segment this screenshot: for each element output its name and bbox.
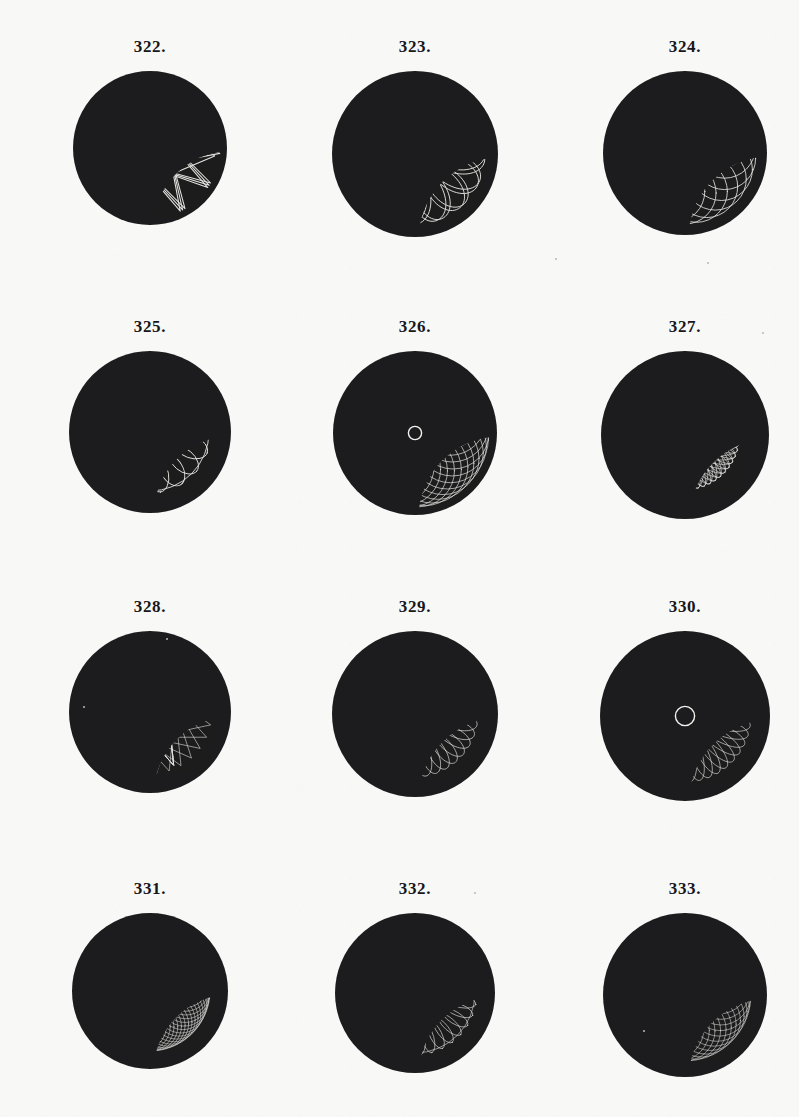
figure-caption: 329. <box>399 598 432 615</box>
figure-cell-327: 327. <box>585 318 785 522</box>
figure-centre-void <box>395 694 435 734</box>
figure-caption: 330. <box>669 598 702 615</box>
figure-caption: 331. <box>134 880 167 897</box>
figure-cell-328: 328. <box>50 598 250 796</box>
figure-disc-wrapper <box>597 628 773 804</box>
figure-disc-wrapper <box>330 348 500 518</box>
figure-323-graphic <box>329 68 501 240</box>
figure-caption: 322. <box>134 38 167 55</box>
figure-331-graphic <box>69 910 231 1072</box>
figure-centre-void <box>677 708 693 724</box>
figure-cell-332: 332. <box>315 880 515 1076</box>
figure-disc-wrapper <box>329 68 501 240</box>
figure-centre-void <box>120 402 180 462</box>
figure-cell-329: 329. <box>315 598 515 800</box>
figure-caption: 328. <box>134 598 167 615</box>
figure-329-graphic <box>329 628 501 800</box>
figure-caption: 326. <box>399 318 432 335</box>
figure-centre-void <box>116 957 184 1025</box>
figure-disc-wrapper <box>600 910 770 1080</box>
figure-disc-wrapper <box>69 910 231 1072</box>
figure-330-graphic <box>597 628 773 804</box>
figure-centre-void <box>410 428 420 438</box>
figure-326-graphic <box>330 348 500 518</box>
paper-speck <box>707 262 709 264</box>
figure-centre-void <box>665 975 705 1015</box>
figure-324-graphic <box>600 68 770 238</box>
figure-disc-wrapper <box>598 348 772 522</box>
figure-caption: 323. <box>399 38 432 55</box>
figure-cell-324: 324. <box>585 38 785 238</box>
figure-centre-void <box>385 963 445 1023</box>
figure-centre-void <box>647 397 723 473</box>
pattern-plate: 322.323.324.325.326.327.328.329.330.331.… <box>0 0 799 1117</box>
figure-caption: 332. <box>399 880 432 897</box>
figure-cell-331: 331. <box>50 880 250 1072</box>
figure-caption: 327. <box>669 318 702 335</box>
figure-caption: 333. <box>669 880 702 897</box>
figure-332-graphic <box>332 910 498 1076</box>
figure-centre-void <box>120 682 180 742</box>
figure-322-graphic <box>70 68 230 228</box>
figure-disc-wrapper <box>329 628 501 800</box>
figure-cell-323: 323. <box>315 38 515 240</box>
figure-cell-326: 326. <box>315 318 515 518</box>
figure-centre-void <box>659 127 711 179</box>
figure-disc-wrapper <box>332 910 498 1076</box>
figure-cell-330: 330. <box>585 598 785 804</box>
figure-disc-wrapper <box>66 348 234 516</box>
figure-333-graphic <box>600 910 770 1080</box>
figure-caption: 325. <box>134 318 167 335</box>
figure-328-graphic <box>66 628 234 796</box>
figure-disc-wrapper <box>70 68 230 228</box>
figure-325-graphic <box>66 348 234 516</box>
figure-centre-void <box>114 112 186 184</box>
figure-327-graphic <box>598 348 772 522</box>
figure-centre-void <box>404 143 426 165</box>
figure-cell-333: 333. <box>585 880 785 1080</box>
figure-cell-325: 325. <box>50 318 250 516</box>
paper-speck <box>555 258 557 260</box>
figure-disc-wrapper <box>600 68 770 238</box>
figure-caption: 324. <box>669 38 702 55</box>
figure-disc-wrapper <box>66 628 234 796</box>
figure-cell-322: 322. <box>50 38 250 228</box>
